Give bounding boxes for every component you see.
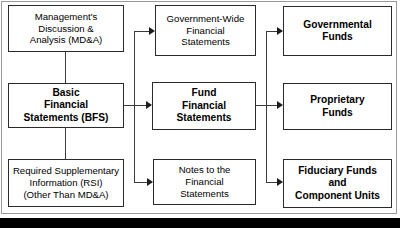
- connector-bfs-to-rsi: [65, 128, 66, 159]
- node-required-supplementary-information[interactable]: Required Supplementary Information (RSI)…: [8, 159, 124, 207]
- node-label: Governmental Funds: [300, 19, 375, 44]
- node-label: Management's Discussion & Analysis (MD&A…: [27, 11, 106, 46]
- node-label: Government-Wide Financial Statements: [164, 13, 248, 48]
- node-label: Notes to the Financial Statements: [176, 164, 234, 199]
- node-label: Basic Financial Statements (BFS): [21, 87, 112, 124]
- connector-mda-to-bfs: [65, 52, 66, 83]
- node-label: Fiduciary Funds and Component Units: [292, 165, 383, 202]
- node-fiduciary-funds-and-component-units[interactable]: Fiduciary Funds and Component Units: [283, 159, 392, 208]
- node-notes-to-financial-statements[interactable]: Notes to the Financial Statements: [153, 159, 256, 205]
- node-label: Fund Financial Statements: [174, 87, 235, 124]
- connector-bfs-spine: [134, 31, 135, 182]
- node-management-discussion-analysis[interactable]: Management's Discussion & Analysis (MD&A…: [8, 5, 124, 52]
- node-fund-financial-statements[interactable]: Fund Financial Statements: [152, 82, 256, 130]
- node-governmental-funds[interactable]: Governmental Funds: [283, 6, 392, 56]
- connector-ffs-spine: [266, 31, 267, 182]
- diagram-canvas: Management's Discussion & Analysis (MD&A…: [0, 0, 400, 228]
- node-proprietary-funds[interactable]: Proprietary Funds: [283, 83, 392, 130]
- bottom-black-bar: [0, 218, 400, 228]
- node-basic-financial-statements[interactable]: Basic Financial Statements (BFS): [8, 83, 124, 128]
- node-government-wide-financial-statements[interactable]: Government-Wide Financial Statements: [155, 5, 256, 56]
- node-label: Proprietary Funds: [307, 94, 367, 119]
- node-label: Required Supplementary Information (RSI)…: [10, 165, 122, 200]
